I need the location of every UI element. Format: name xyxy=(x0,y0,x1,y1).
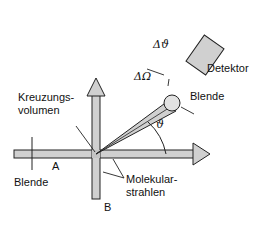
label-theta: ϑ xyxy=(156,118,164,131)
delta-theta-tick-top xyxy=(168,79,169,86)
beam-a-arrow xyxy=(14,143,210,165)
label-molecular-beams-1: Molekular- xyxy=(126,173,178,185)
label-beam-aperture: Blende xyxy=(14,176,48,188)
scattering-diagram: Kreuzungs- volumen Detektor Blende Δϑ ΔΩ… xyxy=(0,0,262,228)
label-beam-b: B xyxy=(104,201,111,213)
label-delta-theta: Δϑ xyxy=(152,38,169,51)
label-beam-a: A xyxy=(52,160,60,172)
aperture-leader-line xyxy=(181,107,194,114)
detector-aperture xyxy=(164,95,180,111)
label-delta-omega: ΔΩ xyxy=(133,70,151,83)
label-crossing-volume-1: Kreuzungs- xyxy=(18,91,75,103)
beam-b-arrow xyxy=(87,78,105,199)
label-crossing-volume-2: volumen xyxy=(18,104,60,116)
label-detector-aperture: Blende xyxy=(190,90,224,102)
label-detector: Detektor xyxy=(207,62,249,74)
label-molecular-beams-2: strahlen xyxy=(126,186,165,198)
